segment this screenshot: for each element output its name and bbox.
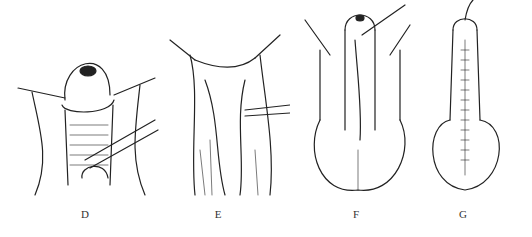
panel-g	[415, 0, 530, 200]
illustration-f	[300, 0, 415, 200]
panel-f	[300, 0, 415, 200]
panel-label-g: G	[453, 208, 473, 220]
illustration-g	[415, 0, 530, 200]
panel-e	[160, 0, 290, 200]
panel-label-d: D	[75, 208, 95, 220]
illustration-d	[10, 0, 160, 200]
panel-label-e: E	[208, 208, 228, 220]
panel-label-f: F	[346, 208, 366, 220]
panel-d	[10, 0, 160, 200]
illustration-e	[160, 0, 290, 200]
